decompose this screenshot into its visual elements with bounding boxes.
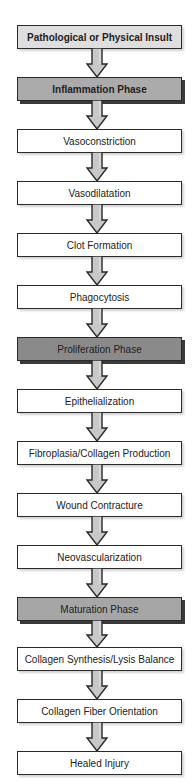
down-arrow-icon — [85, 204, 109, 234]
flow-node-wound-contracture: Wound Contracture — [17, 493, 182, 517]
flow-node-label: Wound Contracture — [56, 500, 143, 511]
flow-node-label: Inflammation Phase — [52, 84, 146, 95]
down-arrow-icon — [85, 256, 109, 286]
flow-node-label: Maturation Phase — [60, 604, 138, 615]
flow-node-neovascularization: Neovascularization — [17, 545, 182, 569]
flow-node-label: Vasodilatation — [68, 188, 130, 199]
down-arrow-icon — [85, 516, 109, 546]
flow-node-label: Proliferation Phase — [57, 344, 142, 355]
down-arrow-icon — [85, 412, 109, 442]
flow-node-label: Pathological or Physical Insult — [27, 32, 172, 43]
down-arrow-icon — [85, 360, 109, 390]
flow-node-label: Healed Injury — [70, 758, 129, 769]
down-arrow-icon — [85, 308, 109, 338]
down-arrow-icon — [85, 100, 109, 130]
flow-node-inflammation-phase: Inflammation Phase — [17, 77, 182, 101]
flow-node-label: Collagen Synthesis/Lysis Balance — [25, 654, 175, 665]
down-arrow-icon — [85, 464, 109, 494]
flow-node-label: Vasoconstriction — [63, 136, 136, 147]
down-arrow-icon — [85, 568, 109, 598]
flow-node-healed-injury: Healed Injury — [17, 751, 182, 775]
flow-node-label: Neovascularization — [57, 552, 142, 563]
flow-node-clot-formation: Clot Formation — [17, 233, 182, 257]
flow-node-maturation-phase: Maturation Phase — [17, 597, 182, 621]
down-arrow-icon — [85, 722, 109, 752]
flow-node-proliferation-phase: Proliferation Phase — [17, 337, 182, 361]
flow-node-label: Collagen Fiber Orientation — [41, 706, 158, 717]
flow-node-vasoconstriction: Vasoconstriction — [17, 129, 182, 153]
flow-node-collagen-fiber-orientation: Collagen Fiber Orientation — [17, 699, 182, 723]
flow-node-fibroplasia-collagen-production: Fibroplasia/Collagen Production — [17, 441, 182, 465]
flow-node-phagocytosis: Phagocytosis — [17, 285, 182, 309]
down-arrow-icon — [85, 48, 109, 78]
flow-node-collagen-synthesis-lysis-balance: Collagen Synthesis/Lysis Balance — [17, 647, 182, 671]
flow-node-pathological-or-physical-insult: Pathological or Physical Insult — [17, 25, 182, 49]
flow-node-label: Fibroplasia/Collagen Production — [29, 448, 171, 459]
flow-node-label: Epithelialization — [65, 396, 135, 407]
flow-node-epithelialization: Epithelialization — [17, 389, 182, 413]
down-arrow-icon — [85, 152, 109, 182]
flow-node-vasodilatation: Vasodilatation — [17, 181, 182, 205]
flow-node-label: Phagocytosis — [70, 292, 129, 303]
down-arrow-icon — [85, 620, 109, 648]
flow-node-label: Clot Formation — [67, 240, 133, 251]
down-arrow-icon — [85, 670, 109, 700]
